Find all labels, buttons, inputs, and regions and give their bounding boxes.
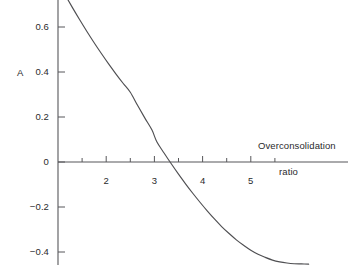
- x-axis-title-line-1: Overconsolidation: [258, 140, 336, 151]
- y-tick-label-1: 0.6: [15, 21, 49, 32]
- x-tick-label-0: 2: [98, 175, 114, 186]
- x-tick-label-2: 4: [195, 175, 211, 186]
- axes-group: [58, 0, 348, 265]
- x-axis-title-line-2: ratio: [279, 166, 298, 177]
- x-tick-label-1: 3: [146, 175, 162, 186]
- y-axis-title: A: [17, 67, 23, 78]
- x-tick-label-3: 5: [243, 175, 259, 186]
- data-curve-A: [58, 0, 309, 264]
- plot-area: [0, 0, 359, 278]
- y-tick-label-4: 0: [15, 156, 49, 167]
- chart-figure: 0.80.60.40.20−0.2−0.4 2345 A Overconsoli…: [0, 0, 359, 278]
- y-tick-label-3: 0.2: [15, 111, 49, 122]
- y-tick-label-5: −0.2: [15, 201, 49, 212]
- y-tick-label-6: −0.4: [15, 246, 49, 257]
